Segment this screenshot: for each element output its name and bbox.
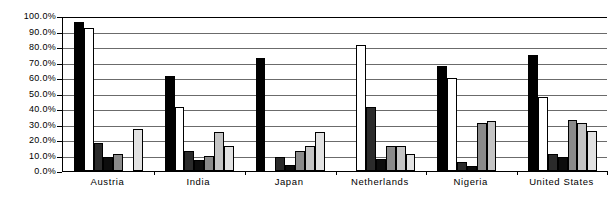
bar: [256, 58, 266, 171]
bar: [175, 107, 185, 171]
x-axis-tick-mark: [607, 171, 608, 175]
x-axis-tick-label: Austria: [62, 176, 153, 187]
x-axis-tick-mark: [426, 171, 427, 175]
y-axis-tick-label: 90.0%: [0, 28, 56, 37]
bar: [113, 154, 123, 171]
x-axis-tick-label: Nigeria: [425, 176, 516, 187]
bar: [165, 76, 175, 171]
bar-group: [426, 17, 517, 171]
y-axis-tick-label: 40.0%: [0, 105, 56, 114]
bar: [74, 22, 84, 171]
bar: [447, 78, 457, 171]
y-axis: 100.0%90.0%80.0%70.0%60.0%50.0%40.0%30.0…: [0, 0, 56, 199]
bar: [133, 129, 143, 171]
bar: [568, 120, 578, 171]
bar: [204, 156, 214, 172]
y-axis-tick-label: 100.0%: [0, 12, 56, 21]
bar: [487, 121, 497, 171]
y-axis-tick-label: 50.0%: [0, 90, 56, 99]
bar: [548, 154, 558, 171]
bar: [406, 154, 416, 171]
y-axis-tick-label: 0.0%: [0, 167, 56, 176]
x-axis: AustriaIndiaJapanNetherlandsNigeriaUnite…: [62, 176, 607, 196]
bar: [467, 166, 477, 171]
bar: [577, 123, 587, 171]
bars-layer: [63, 17, 607, 171]
bar-group: [245, 17, 336, 171]
bar: [84, 28, 94, 171]
x-axis-tick-label: United States: [516, 176, 607, 187]
bar: [194, 160, 204, 171]
bar-group: [336, 17, 427, 171]
x-axis-tick-label: Netherlands: [335, 176, 426, 187]
bar: [386, 146, 396, 171]
bar: [457, 162, 467, 171]
plot-area: [62, 17, 607, 172]
bar: [295, 151, 305, 171]
bar: [477, 123, 487, 171]
bar: [275, 157, 285, 171]
bar: [315, 132, 325, 171]
bar: [305, 146, 315, 171]
x-axis-tick-label: India: [153, 176, 244, 187]
bar: [366, 107, 376, 171]
bar: [103, 157, 113, 171]
y-axis-tick-label: 70.0%: [0, 59, 56, 68]
bar-chart: 100.0%90.0%80.0%70.0%60.0%50.0%40.0%30.0…: [0, 0, 614, 199]
x-axis-tick-label: Japan: [244, 176, 335, 187]
x-axis-tick-mark: [245, 171, 246, 175]
bar: [184, 151, 194, 171]
bar: [356, 45, 366, 171]
x-axis-tick-mark: [336, 171, 337, 175]
y-axis-tick-label: 60.0%: [0, 74, 56, 83]
bar: [214, 132, 224, 171]
bar: [538, 97, 548, 171]
y-axis-tick-label: 80.0%: [0, 43, 56, 52]
bar-group: [517, 17, 608, 171]
bar: [396, 146, 406, 171]
y-axis-tick-label: 20.0%: [0, 136, 56, 145]
bar: [437, 66, 447, 171]
bar: [587, 131, 597, 171]
bar: [528, 55, 538, 171]
bar: [285, 165, 295, 171]
x-axis-tick-mark: [517, 171, 518, 175]
bar-group: [154, 17, 245, 171]
x-axis-tick-mark: [154, 171, 155, 175]
bar-group: [63, 17, 154, 171]
y-axis-tick-label: 10.0%: [0, 152, 56, 161]
bar: [558, 157, 568, 171]
bar: [94, 143, 104, 171]
bar: [376, 159, 386, 171]
bar: [224, 146, 234, 171]
y-axis-tick-label: 30.0%: [0, 121, 56, 130]
y-axis-tick-mark: [57, 172, 62, 173]
